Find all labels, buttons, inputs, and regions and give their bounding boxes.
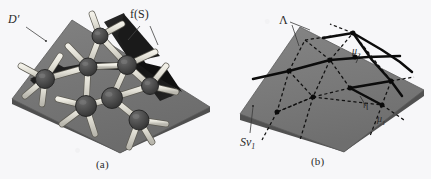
figure-svg (0, 0, 431, 179)
label-mu2: μ2 (352, 46, 360, 59)
graph-node (380, 103, 385, 108)
caption-b: (b) (311, 155, 324, 167)
panel-a-leader-fs-right (150, 26, 158, 45)
graph-node (287, 69, 292, 74)
label-mu2-subscript: 2 (357, 51, 360, 58)
label-lambda: Λ (279, 14, 288, 26)
atom-sphere (102, 88, 123, 109)
atom-sphere (92, 28, 108, 44)
label-eta: η (363, 100, 368, 110)
atom-highlight (82, 62, 88, 66)
label-sv1: Sv1 (240, 136, 255, 151)
graph-node (275, 110, 280, 115)
panel-b-group (240, 22, 424, 152)
graph-node (389, 79, 394, 84)
atom-sphere (79, 58, 97, 76)
atom-sphere (129, 110, 149, 130)
atom-highlight (39, 73, 45, 78)
panel-b-leader-sv1-dot (252, 105, 254, 107)
atom-highlight (105, 92, 112, 97)
atom-sphere (118, 56, 137, 75)
figure-container: D′ f(S) Λ Sv1 μ2 η μ1 (a) (b) (0, 0, 431, 179)
panel-a-leader-dprime (26, 27, 46, 41)
dashed-edge (330, 24, 353, 33)
graph-node (348, 86, 353, 91)
atom-highlight (133, 114, 140, 119)
label-sv1-subscript: 1 (251, 142, 255, 151)
atom-highlight (79, 100, 86, 105)
label-d-prime: D′ (8, 13, 19, 25)
atom-sphere (76, 96, 97, 117)
graph-node (351, 31, 356, 36)
atom-highlight (95, 31, 100, 35)
panel-a-group (12, 13, 210, 153)
graph-node (328, 58, 333, 63)
caption-a: (a) (96, 158, 109, 170)
graph-node (311, 95, 316, 100)
atom-highlight (145, 81, 151, 85)
label-f-of-s: f(S) (130, 8, 149, 20)
label-mu1: μ1 (377, 114, 385, 127)
atom-sphere (36, 70, 55, 89)
atom-highlight (121, 59, 127, 64)
atom-sphere (142, 78, 159, 95)
label-mu1-subscript: 1 (382, 119, 385, 126)
panel-a-leader-dot (45, 40, 47, 42)
